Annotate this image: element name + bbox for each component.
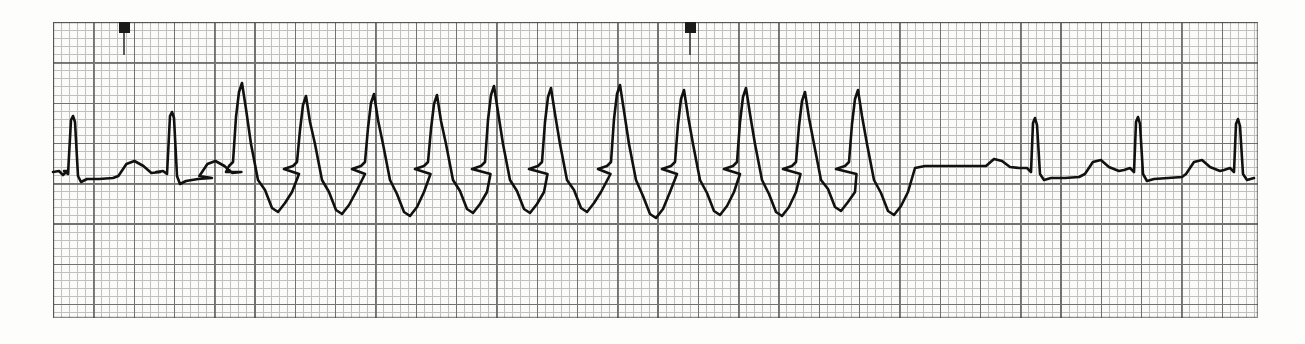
event-marker-1-stem: [123, 33, 125, 55]
ecg-waveform: [0, 0, 1305, 344]
ecg-rhythm-strip: [0, 0, 1305, 344]
event-marker-1: [119, 22, 130, 33]
event-marker-2: [685, 22, 696, 33]
ecg-trace-path: [53, 83, 1254, 218]
event-marker-2-stem: [689, 33, 691, 55]
